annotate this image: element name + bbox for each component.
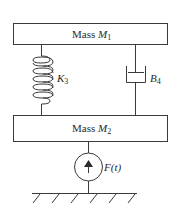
force-label: F(t): [103, 161, 121, 174]
arrow-up-icon: [84, 160, 93, 167]
spring-k3: K3: [33, 45, 68, 115]
damper-b4: B4: [127, 45, 161, 115]
spring-label: K3: [56, 72, 68, 86]
mechanical-diagram: Mass M1 K3 B4 Mass M2 F(t): [0, 0, 178, 217]
mass-m1: Mass M1: [14, 24, 168, 45]
damper-label: B4: [150, 72, 161, 86]
mass-m2-label: Mass M2: [72, 122, 111, 136]
mass-m1-label: Mass M1: [72, 28, 111, 42]
force-source: F(t): [75, 142, 122, 194]
ground: [32, 194, 137, 204]
mass-m2: Mass M2: [14, 116, 168, 142]
